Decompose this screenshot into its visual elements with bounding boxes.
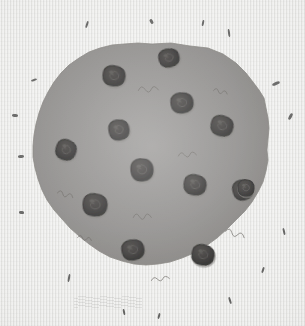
squiggle-bottom [151, 275, 169, 282]
artwork-canvas: Chocolate Chip Cookie A large round lump… [0, 0, 305, 326]
squiggle-lower-right [225, 228, 246, 239]
cookie-vector-drawing [0, 0, 305, 326]
crumb-left-4 [19, 211, 24, 215]
chip-right-edge-small [237, 180, 256, 199]
cookie-illustration [0, 0, 305, 326]
crumb-left-2 [12, 114, 18, 117]
